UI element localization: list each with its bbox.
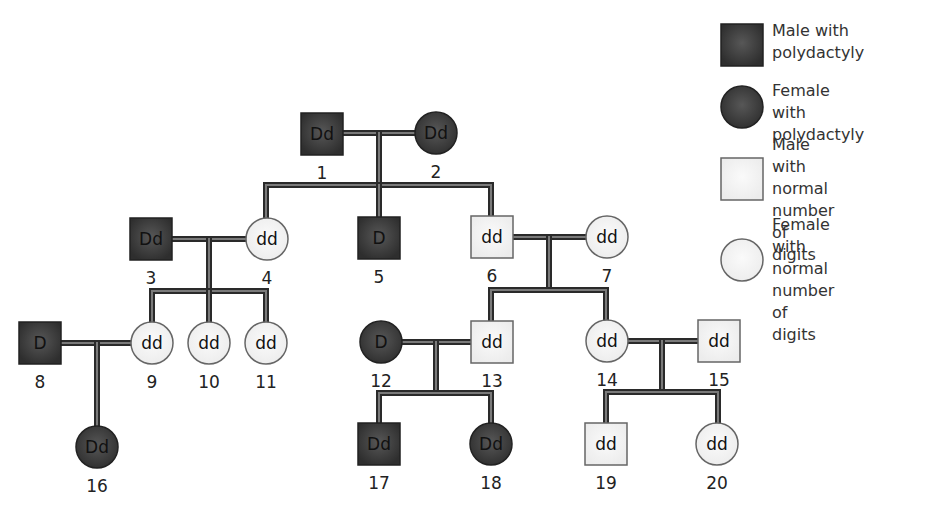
individual-number: 18 xyxy=(480,473,502,493)
legend xyxy=(721,24,763,281)
individual-11: dd11 xyxy=(245,322,287,392)
individual-4: dd4 xyxy=(246,218,288,288)
individual-number: 1 xyxy=(317,163,328,183)
pedigree-line xyxy=(379,393,491,423)
genotype-label: Dd xyxy=(479,434,503,454)
individual-number: 9 xyxy=(147,372,158,392)
individual-2: Dd2 xyxy=(415,112,457,182)
affected-female-circle xyxy=(721,86,763,128)
genotype-label: D xyxy=(374,332,387,352)
individual-14: dd14 xyxy=(586,320,628,390)
individual-10: dd10 xyxy=(188,322,230,392)
legend-symbol-0 xyxy=(721,24,763,66)
genotype-label: Dd xyxy=(367,434,391,454)
pedigree-line xyxy=(491,290,606,321)
legend-symbol-2 xyxy=(721,158,763,200)
individual-15: dd15 xyxy=(698,320,740,390)
individual-number: 7 xyxy=(602,266,613,286)
legend-symbol-3 xyxy=(721,239,763,281)
genotype-label: D xyxy=(372,228,385,248)
genotype-label: Dd xyxy=(310,124,334,144)
genotype-label: dd xyxy=(481,227,503,247)
individual-9: dd9 xyxy=(131,322,173,392)
individual-number: 8 xyxy=(35,372,46,392)
individual-number: 11 xyxy=(255,372,277,392)
pedigree-line xyxy=(606,392,718,423)
individual-number: 14 xyxy=(596,370,618,390)
individual-1: Dd1 xyxy=(301,113,343,183)
genotype-label: dd xyxy=(198,333,220,353)
individual-12: D12 xyxy=(360,321,402,391)
legend-symbol-1 xyxy=(721,86,763,128)
genotype-label: Dd xyxy=(85,437,109,457)
individual-number: 17 xyxy=(368,473,390,493)
individual-8: D8 xyxy=(19,322,61,392)
individual-number: 12 xyxy=(370,371,392,391)
genotype-label: dd xyxy=(256,229,278,249)
individual-18: Dd18 xyxy=(470,423,512,493)
legend-label: Female with normal number of digits xyxy=(772,214,834,346)
individual-13: dd13 xyxy=(471,321,513,391)
normal-male-square xyxy=(721,158,763,200)
genotype-label: dd xyxy=(481,332,503,352)
individual-number: 6 xyxy=(487,266,498,286)
individual-number: 2 xyxy=(431,162,442,182)
genotype-label: dd xyxy=(706,434,728,454)
genotype-label: dd xyxy=(141,333,163,353)
individual-number: 16 xyxy=(86,476,108,496)
individual-number: 3 xyxy=(146,268,157,288)
genotype-label: D xyxy=(33,333,46,353)
individual-number: 13 xyxy=(481,371,503,391)
individual-7: dd7 xyxy=(586,216,628,286)
individual-number: 15 xyxy=(708,370,730,390)
individual-17: Dd17 xyxy=(358,423,400,493)
genotype-label: dd xyxy=(595,434,617,454)
genotype-label: dd xyxy=(708,331,730,351)
individual-6: dd6 xyxy=(471,216,513,286)
individual-19: dd19 xyxy=(585,423,627,493)
individual-number: 19 xyxy=(595,473,617,493)
genotype-label: dd xyxy=(255,333,277,353)
genotype-label: Dd xyxy=(424,123,448,143)
individual-number: 5 xyxy=(374,267,385,287)
individual-3: Dd3 xyxy=(130,218,172,288)
normal-female-circle xyxy=(721,239,763,281)
individual-20: dd20 xyxy=(696,423,738,493)
genotype-label: dd xyxy=(596,227,618,247)
individual-5: D5 xyxy=(358,217,400,287)
legend-label: Male with polydactyly xyxy=(772,20,864,64)
genotype-label: Dd xyxy=(139,229,163,249)
individual-16: Dd16 xyxy=(76,426,118,496)
individual-number: 4 xyxy=(262,268,273,288)
individual-number: 20 xyxy=(706,473,728,493)
affected-male-square xyxy=(721,24,763,66)
individual-number: 10 xyxy=(198,372,220,392)
genotype-label: dd xyxy=(596,331,618,351)
